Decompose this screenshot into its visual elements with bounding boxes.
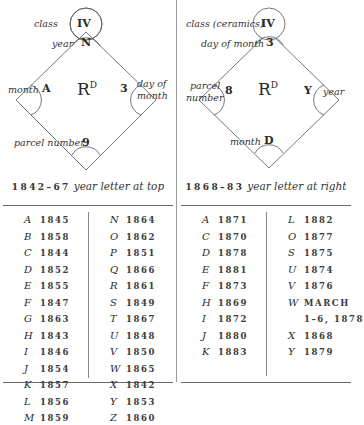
year-value: 1858 — [40, 232, 70, 242]
year-letter: L — [24, 394, 40, 411]
rd-mark: RD — [258, 79, 278, 99]
table-row: L1882 — [288, 212, 364, 229]
table-row: L1856 — [24, 394, 70, 411]
table-row: 1–6, 1878 — [288, 311, 364, 328]
year-letter: I — [24, 344, 40, 361]
year-value: 1865 — [126, 364, 156, 374]
year-letter: W — [110, 361, 126, 378]
left-registration-diamond: IV class N year A month RD 3 day of mont… — [0, 0, 176, 200]
parcel-label: parcel number — [14, 137, 85, 148]
year-letter: C — [24, 245, 40, 262]
table-row: U1848 — [110, 328, 156, 345]
year-value: 1882 — [304, 215, 334, 225]
table-row: Z1860 — [110, 410, 156, 425]
table-row: O1862 — [110, 229, 156, 246]
year-letter: I — [202, 311, 218, 328]
year-letter: Y — [110, 394, 126, 411]
year-value: 1862 — [126, 232, 156, 242]
year-letter: E — [202, 262, 218, 279]
year-value: 1853 — [126, 397, 156, 407]
right-caption: 1868–83year letter at right — [178, 180, 354, 192]
year-letter: S — [110, 295, 126, 312]
year-letter: H — [24, 328, 40, 345]
year-value: 1848 — [126, 331, 156, 341]
table-row: D1878 — [202, 245, 248, 262]
year-letter: O — [288, 229, 304, 246]
year-value: 1861 — [126, 281, 156, 291]
year-value: 1863 — [40, 314, 70, 324]
table-row: Y1879 — [288, 344, 364, 361]
year-letter: F — [24, 295, 40, 312]
year-value: 1874 — [304, 265, 334, 275]
panel-divider — [176, 0, 177, 382]
table-row: W1865 — [110, 361, 156, 378]
table-row: X1842 — [110, 377, 156, 394]
year-value: 1851 — [126, 248, 156, 258]
year-letter: R — [110, 278, 126, 295]
year-value: 1847 — [40, 298, 70, 308]
table-row: M1859 — [24, 410, 70, 425]
table-row: S1875 — [288, 245, 364, 262]
year-value: 1859 — [40, 413, 70, 423]
rd-mark: RD — [77, 79, 97, 99]
month-label: month — [230, 136, 261, 147]
year-value: 1871 — [218, 215, 248, 225]
year-value: 1857 — [40, 380, 70, 390]
year-label: year — [323, 86, 344, 97]
table-row: B1858 — [24, 229, 70, 246]
year-value: 1876 — [304, 281, 334, 291]
table-row: E1855 — [24, 278, 70, 295]
table-row: V1850 — [110, 344, 156, 361]
table-row: R1861 — [110, 278, 156, 295]
year-letter: H — [202, 295, 218, 312]
year-value: 1860 — [126, 413, 156, 423]
table-row: N1864 — [110, 212, 156, 229]
month-letter: D — [264, 134, 274, 147]
table-row: C1870 — [202, 229, 248, 246]
year-value: 1875 — [304, 248, 334, 258]
right-table-col-1: A1871C1870D1878E1881F1873H1869I1872J1880… — [202, 212, 248, 361]
year-letter: Y — [304, 84, 312, 97]
table-row: Q1866 — [110, 262, 156, 279]
month-label: month — [8, 84, 39, 95]
year-value: 1880 — [218, 331, 248, 341]
year-letter: D — [202, 245, 218, 262]
table-row: I1846 — [24, 344, 70, 361]
year-value: 1843 — [40, 331, 70, 341]
year-value: 1872 — [218, 314, 248, 324]
year-letter: G — [24, 311, 40, 328]
class-label: class — [34, 18, 58, 29]
table-row: H1843 — [24, 328, 70, 345]
table-row: J1880 — [202, 328, 248, 345]
right-bottom-rule — [181, 382, 351, 383]
day-label-2: month — [137, 90, 168, 101]
year-value: 1877 — [304, 232, 334, 242]
year-label: year — [52, 38, 73, 49]
year-letter: J — [202, 328, 218, 345]
year-letter: X — [288, 328, 304, 345]
table-row: K1857 — [24, 377, 70, 394]
left-table-col-1: A1845B1858C1844D1852E1855F1847G1863H1843… — [24, 212, 70, 425]
table-row: G1863 — [24, 311, 70, 328]
year-letter: C — [202, 229, 218, 246]
year-letter: U — [110, 328, 126, 345]
year-letter: N — [110, 212, 126, 229]
year-value: 1873 — [218, 281, 248, 291]
parcel-value: 8 — [225, 84, 233, 97]
right-table-divider — [266, 212, 267, 376]
year-letter: K — [202, 344, 218, 361]
table-row: A1845 — [24, 212, 70, 229]
year-letter: N — [81, 36, 91, 49]
left-table-divider — [88, 212, 89, 378]
table-row: X1868 — [288, 328, 364, 345]
year-value: 1856 — [40, 397, 70, 407]
year-value: 1846 — [40, 347, 70, 357]
table-row: O1877 — [288, 229, 364, 246]
table-row: D1852 — [24, 262, 70, 279]
right-rule — [181, 205, 351, 206]
day-value: 3 — [120, 82, 128, 95]
parcel-label-2: number — [186, 92, 224, 103]
month-letter: A — [42, 82, 51, 95]
right-table-col-2: L1882O1877S1875U1874V1876WMARCH1–6, 1878… — [288, 212, 364, 361]
year-letter: V — [288, 278, 304, 295]
